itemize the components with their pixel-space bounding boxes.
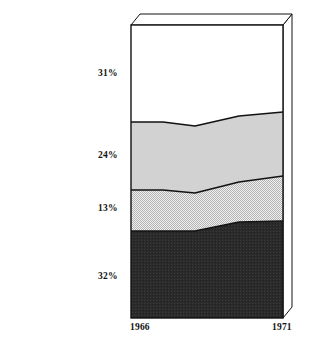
axis-tick-end: 1971: [272, 321, 292, 333]
block-front-face: [131, 25, 283, 318]
axis-tick-start: 1966: [130, 321, 150, 333]
chart-figure: Top 1% 31% 2 – 5% 24% 6 – 10% 13% Bottom…: [0, 0, 314, 345]
band-top-1: [131, 25, 283, 126]
block-right-face: [283, 14, 292, 318]
stacked-area-block: [0, 0, 314, 345]
block-top-face: [131, 14, 292, 25]
band-bottom-90: [131, 221, 283, 318]
